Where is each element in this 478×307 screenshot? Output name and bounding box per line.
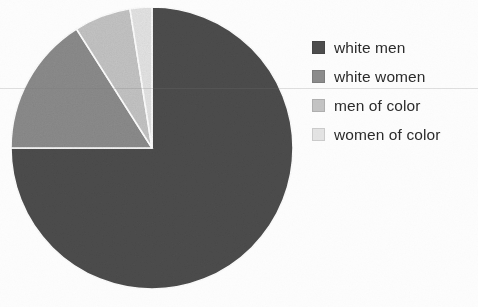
legend-swatch-icon — [312, 70, 325, 83]
legend-item-white-women: white women — [312, 62, 478, 91]
chart-legend: white men white women men of color women… — [312, 33, 478, 149]
pie-slice-group — [11, 7, 293, 289]
legend-item-label: white women — [334, 69, 426, 85]
legend-item-white-men: white men — [312, 33, 478, 62]
legend-swatch-icon — [312, 41, 325, 54]
legend-item-label: women of color — [334, 127, 441, 143]
legend-item-label: men of color — [334, 98, 421, 114]
legend-item-women-of-color: women of color — [312, 120, 478, 149]
legend-item-men-of-color: men of color — [312, 91, 478, 120]
pie-chart-svg — [0, 0, 310, 307]
chart-page: white men white women men of color women… — [0, 0, 478, 307]
pie-chart — [0, 0, 310, 307]
legend-swatch-icon — [312, 99, 325, 112]
legend-swatch-icon — [312, 128, 325, 141]
legend-item-label: white men — [334, 40, 406, 56]
